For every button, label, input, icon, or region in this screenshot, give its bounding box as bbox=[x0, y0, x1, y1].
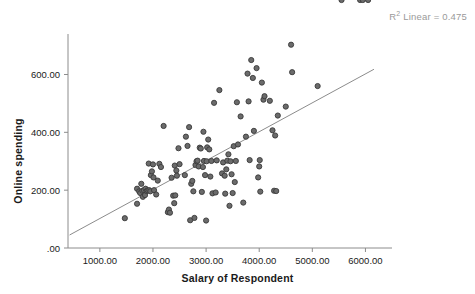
scatter-point bbox=[273, 133, 278, 138]
scatter-point bbox=[183, 134, 188, 139]
scatter-point bbox=[224, 167, 229, 172]
scatter-point bbox=[176, 146, 181, 151]
scatter-point bbox=[195, 158, 200, 163]
scatter-point bbox=[209, 158, 214, 163]
scatter-point bbox=[177, 162, 182, 167]
scatter-point bbox=[259, 80, 264, 85]
scatter-point bbox=[234, 100, 239, 105]
scatter-point bbox=[161, 123, 166, 128]
scatter-point bbox=[198, 146, 203, 151]
y-tick-label: .00 bbox=[0, 243, 60, 254]
scatter-point bbox=[213, 190, 218, 195]
scatter-point bbox=[201, 129, 206, 134]
x-tick-label: 3000.00 bbox=[189, 255, 223, 266]
scatter-point bbox=[247, 157, 252, 162]
scatter-point bbox=[232, 179, 237, 184]
scatter-point bbox=[149, 169, 154, 174]
scatter-point bbox=[228, 159, 233, 164]
plot-canvas bbox=[0, 0, 475, 294]
scatter-point bbox=[158, 164, 163, 169]
scatter-point bbox=[174, 173, 179, 178]
scatter-point bbox=[256, 175, 261, 180]
scatter-point bbox=[172, 201, 177, 206]
scatter-point bbox=[290, 70, 295, 75]
scatter-point bbox=[226, 152, 231, 157]
y-tick-label: 400.00 bbox=[0, 127, 60, 138]
scatter-point bbox=[167, 210, 172, 215]
linear-fit-line bbox=[70, 69, 374, 235]
scatter-point bbox=[315, 83, 320, 88]
scatter-point bbox=[267, 98, 272, 103]
scatter-point bbox=[250, 75, 255, 80]
r-squared-annotation: R2 Linear = 0.475 bbox=[389, 10, 467, 22]
scatter-point bbox=[187, 125, 192, 130]
y-tick-label: 600.00 bbox=[0, 69, 60, 80]
scatter-point bbox=[150, 162, 155, 167]
regression-line bbox=[70, 69, 374, 235]
scatter-point bbox=[192, 215, 197, 220]
scatter-point bbox=[258, 189, 263, 194]
scatter-point bbox=[174, 168, 179, 173]
scatter-point bbox=[227, 203, 232, 208]
scatter-point bbox=[200, 164, 205, 169]
scatter-point bbox=[185, 143, 190, 148]
scatter-plot-figure: R2 Linear = 0.475 Salary of Respondent O… bbox=[0, 0, 475, 294]
scatter-point bbox=[360, 0, 365, 3]
x-tick-label: 1000.00 bbox=[83, 255, 117, 266]
scatter-point bbox=[366, 0, 371, 3]
scatter-point bbox=[339, 0, 344, 3]
scatter-point bbox=[243, 134, 248, 139]
scatter-point bbox=[288, 42, 293, 47]
x-tick-label: 2000.00 bbox=[136, 255, 170, 266]
scatter-point bbox=[199, 189, 204, 194]
scatter-point bbox=[257, 164, 262, 169]
r-squared-value-text: Linear = 0.475 bbox=[400, 11, 467, 22]
scatter-point bbox=[217, 88, 222, 93]
scatter-point bbox=[139, 181, 144, 186]
scatter-point bbox=[154, 192, 159, 197]
scatter-point bbox=[270, 128, 275, 133]
scatter-point bbox=[251, 128, 256, 133]
x-tick-label: 5000.00 bbox=[295, 255, 329, 266]
x-tick-label: 4000.00 bbox=[242, 255, 276, 266]
scatter-point bbox=[134, 201, 139, 206]
y-axis-title: Online spending bbox=[12, 96, 24, 226]
scatter-point bbox=[241, 200, 246, 205]
y-tick-label: 200.00 bbox=[0, 185, 60, 196]
scatter-point bbox=[206, 137, 211, 142]
scatter-point bbox=[275, 113, 280, 118]
x-tick-label: 6000.00 bbox=[348, 255, 382, 266]
data-points bbox=[122, 0, 370, 223]
scatter-point bbox=[223, 191, 228, 196]
scatter-point bbox=[122, 216, 127, 221]
scatter-point bbox=[283, 104, 288, 109]
scatter-point bbox=[211, 100, 216, 105]
scatter-point bbox=[257, 157, 262, 162]
scatter-point bbox=[238, 114, 243, 119]
scatter-point bbox=[191, 189, 196, 194]
scatter-point bbox=[208, 174, 213, 179]
scatter-point bbox=[155, 178, 160, 183]
scatter-point bbox=[182, 173, 187, 178]
scatter-point bbox=[249, 57, 254, 62]
scatter-point bbox=[204, 218, 209, 223]
scatter-point bbox=[262, 94, 267, 99]
scatter-point bbox=[254, 66, 259, 71]
scatter-point bbox=[230, 190, 235, 195]
scatter-point bbox=[173, 193, 178, 198]
scatter-point bbox=[245, 71, 250, 76]
scatter-point bbox=[169, 175, 174, 180]
scatter-point bbox=[246, 99, 251, 104]
scatter-point bbox=[235, 142, 240, 147]
scatter-point bbox=[274, 188, 279, 193]
axis-lines bbox=[68, 34, 392, 248]
x-axis-title: Salary of Respondent bbox=[0, 272, 475, 284]
scatter-point bbox=[202, 173, 207, 178]
scatter-point bbox=[222, 173, 227, 178]
scatter-point bbox=[190, 178, 195, 183]
scatter-point bbox=[233, 158, 238, 163]
scatter-point bbox=[214, 158, 219, 163]
scatter-point bbox=[229, 172, 234, 177]
scatter-point bbox=[207, 147, 212, 152]
